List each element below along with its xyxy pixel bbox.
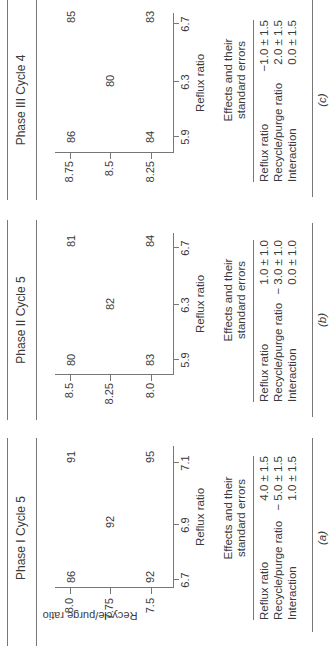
panel-caption: (b)	[316, 220, 328, 420]
effect-name: Recycle/purge ratio	[272, 521, 284, 620]
y-tick-label: 8.5	[103, 161, 115, 195]
data-value: 91	[65, 451, 77, 463]
y-tick-label: 8.0	[144, 383, 156, 417]
bottom-rule	[312, 438, 313, 632]
effect-value: − 5.0 ± 1.5	[271, 456, 285, 511]
x-tick-label: 6.3	[179, 290, 191, 320]
data-value: 84	[144, 235, 156, 247]
effects-heading: Effects and their standard errors	[222, 0, 248, 160]
effect-name: Interaction	[286, 348, 298, 402]
x-tick-label: 5.9	[179, 345, 191, 375]
effect-row: Reflux ratio1.0 ± 1.0	[257, 240, 271, 402]
panel-title: Phase III Cycle 4	[14, 0, 28, 200]
panel-b: Phase II Cycle 5 8.5 8.25 8.0 5.9 6.3 6.…	[0, 220, 335, 420]
y-tick-label: 8.75	[63, 161, 75, 195]
effect-name: Reflux ratio	[258, 562, 270, 620]
data-value: 86	[65, 571, 77, 583]
effect-name: Interaction	[286, 566, 298, 620]
y-axis	[55, 152, 174, 153]
y-tick	[151, 375, 152, 381]
y-tick	[70, 588, 71, 594]
effect-name: Interaction	[286, 128, 298, 182]
y-tick	[110, 153, 111, 159]
effect-value: 1.0 ± 1.0	[257, 240, 271, 285]
y-tick	[110, 588, 111, 594]
table-rule	[253, 20, 254, 182]
data-value: 92	[144, 571, 156, 583]
x-axis-label: Reflux ratio	[194, 13, 206, 153]
data-value: 83	[144, 11, 156, 23]
effect-row: Recycle/purge ratio2.0 ± 1.5	[271, 20, 285, 182]
effect-value: − 3.0 ± 1.0	[271, 240, 285, 295]
panel-c: Phase III Cycle 4 8.75 8.5 8.25 5.9 6.3 …	[0, 0, 335, 200]
effect-name: Reflux ratio	[258, 344, 270, 402]
x-axis	[173, 13, 174, 153]
data-value: 81	[65, 235, 77, 247]
effect-value: 1.0 ± 1.5	[285, 456, 299, 501]
effect-name: Recycle/purge ratio	[272, 303, 284, 402]
x-tick-label: 6.7	[179, 233, 191, 263]
y-tick-label: 7.5	[144, 598, 156, 632]
top-rule	[7, 220, 8, 420]
panel-title: Phase I Cycle 5	[14, 438, 28, 638]
data-value: 84	[144, 131, 156, 143]
effects-heading-line1: Effects and their	[222, 0, 235, 160]
data-value: 80	[65, 354, 77, 366]
effect-name: Recycle/purge ratio	[272, 83, 284, 182]
effect-name: Reflux ratio	[258, 124, 270, 182]
table-rule	[253, 456, 254, 620]
y-tick-label: 8.5	[63, 383, 75, 417]
y-tick	[151, 153, 152, 159]
panel-caption: (a)	[316, 438, 328, 638]
title-rule	[36, 220, 37, 420]
effect-row: Recycle/purge ratio− 3.0 ± 1.0	[271, 240, 285, 402]
x-axis	[173, 446, 174, 588]
effect-value: 2.0 ± 1.5	[271, 20, 285, 65]
data-value: 85	[65, 11, 77, 23]
y-tick	[70, 153, 71, 159]
x-tick-label: 6.7	[179, 565, 191, 595]
effect-row: Recycle/purge ratio− 5.0 ± 1.5	[271, 456, 285, 620]
panel-title: Phase II Cycle 5	[14, 220, 28, 420]
effects-heading-line2: standard errors	[235, 0, 248, 160]
data-value: 86	[65, 131, 77, 143]
y-axis	[55, 374, 174, 375]
top-rule	[7, 438, 8, 646]
effects-heading: Effects and their standard errors	[222, 438, 248, 598]
y-axis	[55, 587, 174, 588]
title-rule	[36, 0, 37, 200]
y-tick	[70, 375, 71, 381]
effects-heading: Effects and their standard errors	[222, 220, 248, 380]
effects-heading-line1: Effects and their	[222, 220, 235, 380]
panel-caption: (c)	[316, 0, 328, 200]
x-tick-label: 6.9	[179, 510, 191, 540]
x-tick-label: 7.1	[179, 448, 191, 478]
y-tick	[151, 588, 152, 594]
bottom-rule	[312, 0, 313, 197]
x-tick-label: 5.9	[179, 122, 191, 152]
effect-value: 4.0 ± 1.5	[257, 456, 271, 501]
x-tick-label: 6.7	[179, 9, 191, 39]
data-value: 92	[104, 516, 116, 528]
y-tick-label: 8.25	[103, 383, 115, 417]
effect-row: Interaction0.0 ± 1.5	[285, 20, 299, 182]
top-rule	[7, 0, 8, 200]
effect-value: 0.0 ± 1.5	[285, 20, 299, 65]
effects-heading-line1: Effects and their	[222, 438, 235, 598]
x-axis-label: Reflux ratio	[194, 233, 206, 375]
effect-row: Interaction1.0 ± 1.5	[285, 456, 299, 620]
data-value: 95	[144, 451, 156, 463]
effect-row: Reflux ratio−1.0 ± 1.5	[257, 20, 271, 182]
effect-value: 0.0 ± 1.0	[285, 240, 299, 285]
effect-row: Interaction0.0 ± 1.0	[285, 240, 299, 402]
data-value: 83	[144, 354, 156, 366]
table-rule	[253, 240, 254, 402]
effects-heading-line2: standard errors	[235, 220, 248, 380]
effects-heading-line2: standard errors	[235, 438, 248, 598]
y-tick	[110, 375, 111, 381]
effect-value: −1.0 ± 1.5	[257, 20, 271, 71]
x-axis-label: Reflux ratio	[194, 446, 206, 588]
bottom-rule	[312, 223, 313, 417]
effect-row: Reflux ratio4.0 ± 1.5	[257, 456, 271, 620]
y-tick-label: 8.25	[144, 161, 156, 195]
